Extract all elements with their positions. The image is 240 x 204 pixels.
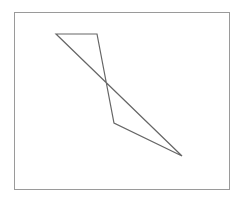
crossed-quadrilateral-shape [56,34,182,156]
figure-frame [15,13,230,190]
figure-canvas [0,0,240,204]
